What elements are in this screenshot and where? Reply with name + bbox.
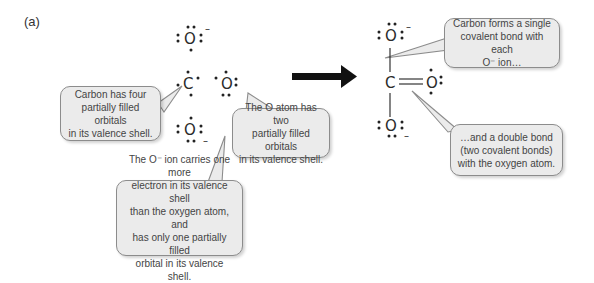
callout-line: in its valence shell. [239,153,323,166]
reaction-arrow-icon [292,65,357,88]
atom-symbol: O [221,75,233,93]
callout-line: than the oxygen atom, and [123,205,236,231]
product-carbon: C [385,74,395,92]
atom-symbol: C [183,75,193,93]
callout-single-bond: Carbon forms a single covalent bond with… [444,18,560,68]
reactant-o-atom: O [215,71,238,97]
atom-symbol: O [385,27,397,45]
callout-line: Carbon has four [67,88,154,101]
callout-line: with the oxygen atom. [458,157,555,170]
callout-line: orbital in its valence shell. [123,257,236,283]
reactant-o-ion-top: O – [177,23,211,52]
double-bond [399,79,423,84]
product-o-ion-top: O – [378,21,412,45]
callout-o-ion: The O⁻ ion carries one more electron in … [116,180,243,256]
atom-symbol: O [184,121,196,139]
atom-symbol: O [184,30,196,48]
atom-symbol: O [426,74,438,92]
callout-line: in its valence shell. [67,127,154,140]
callout-line: The O⁻ ion carries one more [123,153,236,179]
callout-double-bond: …and a double bond (two covalent bonds) … [450,124,563,176]
product-o-ion-bottom: O – [378,117,410,141]
callout-line: partially filled orbitals [67,101,154,127]
callout-line: Carbon forms a single [451,17,553,30]
callout-o-atom: The O atom has two partially filled orbi… [232,108,330,158]
callout-carbon: Carbon has four partially filled orbital… [60,86,161,141]
callout-line: covalent bond with each [451,30,553,56]
reactant-o-ion-bottom: O – [177,117,209,147]
reactant-carbon: C [177,71,200,97]
callout-line: The O atom has two [239,101,323,127]
callout-line: partially filled orbitals [239,127,323,153]
charge-sign: – [205,23,210,34]
callout-line: …and a double bond [458,131,555,144]
atom-symbol: C [385,74,395,92]
charge-sign: – [406,21,411,32]
callout-line: O⁻ ion… [451,56,553,69]
product-o-double: O [426,69,443,95]
callout-line: electron in its valence shell [123,179,236,205]
charge-sign: – [404,130,409,141]
callout-line: (two covalent bonds) [458,144,555,157]
callout-line: has only one partially filled [123,231,236,257]
charge-sign: – [203,135,208,146]
atom-symbol: O [385,117,397,135]
